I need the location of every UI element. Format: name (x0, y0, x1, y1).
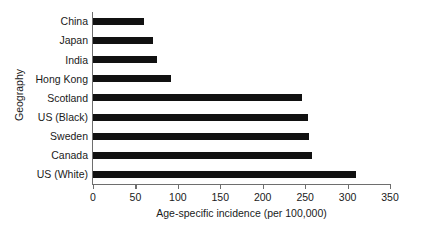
x-tick-mark (263, 184, 264, 189)
y-axis-title-text: Geography (13, 69, 25, 121)
y-tick-label: China (61, 16, 88, 27)
y-tick-label: Sweden (50, 131, 88, 142)
bar (93, 18, 144, 25)
y-tick-label: Hong Kong (35, 74, 88, 85)
x-tick-mark (93, 184, 94, 189)
x-tick-mark (348, 184, 349, 189)
bar (93, 94, 302, 101)
bar-row: US (Black) (93, 108, 390, 127)
bar (93, 114, 308, 121)
x-tick-label: 200 (254, 192, 272, 203)
x-tick-label: 300 (339, 192, 357, 203)
bar-row: Japan (93, 31, 390, 50)
x-tick-label: 0 (90, 192, 96, 203)
x-tick-mark (220, 184, 221, 189)
x-tick-label: 50 (130, 192, 142, 203)
x-tick-label: 350 (381, 192, 399, 203)
y-axis-title: Geography (8, 0, 30, 190)
bar (93, 37, 153, 44)
bar-row: China (93, 12, 390, 31)
bar-row: Canada (93, 146, 390, 165)
x-axis-line (92, 184, 391, 185)
x-tick-mark (135, 184, 136, 189)
bar (93, 75, 171, 82)
bar-row: India (93, 50, 390, 69)
bar-row: Hong Kong (93, 69, 390, 88)
x-axis-title: Age-specific incidence (per 100,000) (93, 207, 390, 219)
bar (93, 152, 312, 159)
x-tick-label: 150 (212, 192, 230, 203)
y-tick-label: India (65, 55, 88, 66)
x-tick-mark (178, 184, 179, 189)
y-tick-label: US (White) (37, 169, 88, 180)
y-tick-label: US (Black) (38, 112, 88, 123)
bar-row: Sweden (93, 127, 390, 146)
y-tick-label: Scotland (47, 93, 88, 104)
x-tick-label: 250 (296, 192, 314, 203)
bar-chart: Geography ChinaJapanIndiaHong KongScotla… (0, 0, 421, 240)
x-tick-label: 100 (169, 192, 187, 203)
x-tick-mark (390, 184, 391, 189)
y-tick-label: Japan (59, 35, 88, 46)
bar (93, 56, 157, 63)
bar-row: US (White) (93, 165, 390, 184)
plot-area: ChinaJapanIndiaHong KongScotlandUS (Blac… (93, 12, 390, 184)
bar (93, 171, 356, 178)
y-tick-label: Canada (51, 150, 88, 161)
x-tick-mark (305, 184, 306, 189)
bar (93, 133, 309, 140)
bar-row: Scotland (93, 88, 390, 107)
